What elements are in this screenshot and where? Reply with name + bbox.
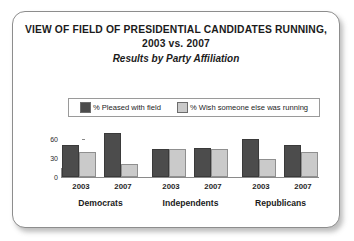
x-axis-year-label: 2007 — [194, 182, 232, 191]
x-axis-group-label: Democrats — [62, 198, 139, 208]
bar-pair: 2007 — [104, 12, 142, 229]
x-axis-year-label: 2003 — [242, 182, 280, 191]
bar — [79, 152, 96, 177]
plot-area: 03060 20032007Democrats20032007Independe… — [13, 12, 341, 229]
chart-card: VIEW OF FIELD OF PRESIDENTIAL CANDIDATES… — [12, 11, 340, 228]
bar-pair: 2003 — [242, 12, 280, 229]
bar — [169, 149, 186, 178]
bar-group: 20032007Independents — [152, 12, 229, 229]
bar — [301, 152, 318, 177]
bar-group: 20032007Democrats — [62, 12, 139, 229]
bar-pair: 2003 — [62, 12, 100, 229]
y-axis-tick-label: 30 — [50, 155, 58, 162]
bar-group: 20032007Republicans — [242, 12, 319, 229]
bar — [152, 149, 169, 178]
y-axis-tick-label: 60 — [50, 136, 58, 143]
x-axis-group-label: Republicans — [242, 198, 319, 208]
bar-pair: 2007 — [284, 12, 322, 229]
x-axis-year-label: 2003 — [152, 182, 190, 191]
x-axis-year-label: 2003 — [62, 182, 100, 191]
bar — [62, 145, 79, 177]
y-axis-tick-labels: 03060 — [37, 12, 58, 229]
bar — [284, 145, 301, 177]
x-axis-year-label: 2007 — [284, 182, 322, 191]
bar-pair: 2003 — [152, 12, 190, 229]
bar — [242, 139, 259, 177]
y-axis-tick-label: 0 — [54, 174, 58, 181]
bar-pair: 2007 — [194, 12, 232, 229]
bar — [121, 164, 138, 177]
bar — [259, 159, 276, 177]
bar — [194, 148, 211, 177]
x-axis-group-label: Independents — [152, 198, 229, 208]
bar-groups: 20032007Democrats20032007Independents200… — [62, 12, 319, 229]
bar — [211, 149, 228, 177]
bar — [104, 133, 121, 177]
x-axis-year-label: 2007 — [104, 182, 142, 191]
